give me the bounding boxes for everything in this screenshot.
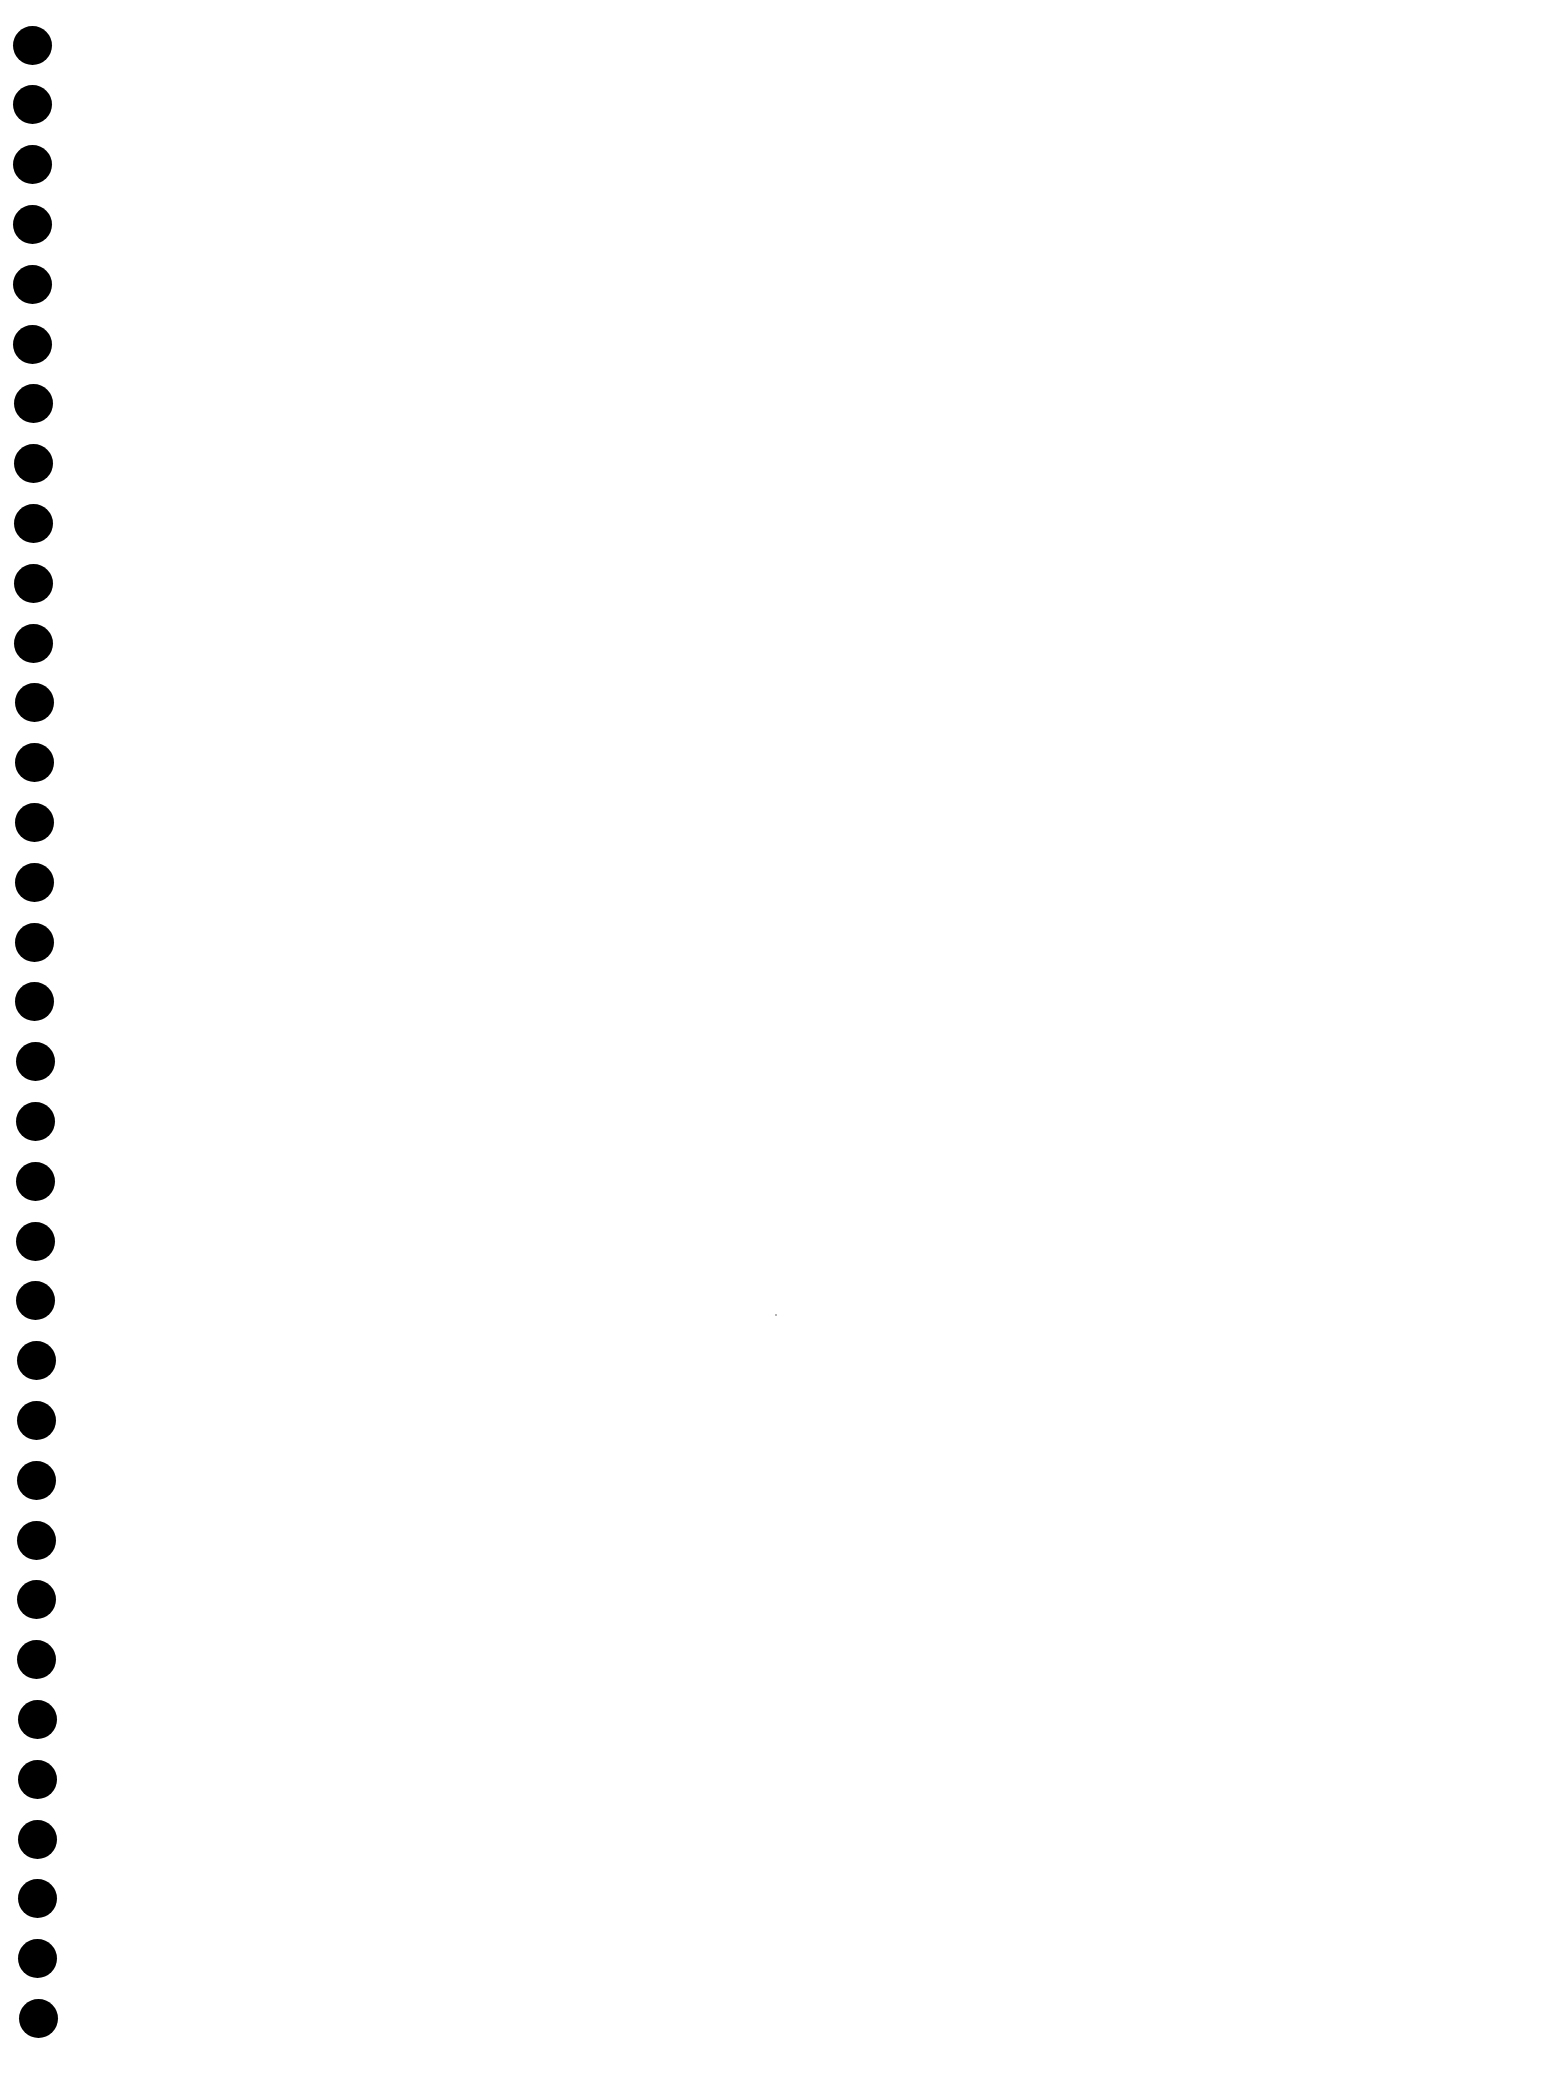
binder-hole xyxy=(18,1760,57,1799)
binder-hole xyxy=(17,1521,56,1560)
binder-hole xyxy=(18,1939,57,1978)
binder-hole xyxy=(17,1401,56,1440)
binder-hole xyxy=(15,923,54,962)
binder-hole xyxy=(13,325,52,364)
paper-speck xyxy=(775,1314,777,1316)
binder-hole xyxy=(13,205,52,244)
binder-hole xyxy=(16,1162,55,1201)
binder-hole xyxy=(13,265,52,304)
binder-hole xyxy=(15,803,54,842)
binder-hole xyxy=(17,1640,56,1679)
binder-hole xyxy=(16,1222,55,1261)
binder-hole xyxy=(14,504,53,543)
notebook-page xyxy=(0,0,1547,2084)
binder-hole xyxy=(15,863,54,902)
binder-hole xyxy=(13,145,52,184)
binder-hole xyxy=(14,624,53,663)
binder-hole xyxy=(17,1461,56,1500)
binder-hole xyxy=(16,1042,55,1081)
binder-hole xyxy=(15,982,54,1021)
binder-hole xyxy=(17,1580,56,1619)
binder-hole xyxy=(18,1700,57,1739)
binder-hole xyxy=(18,1879,57,1918)
binder-holes-column xyxy=(0,0,80,2084)
binder-hole xyxy=(16,1281,55,1320)
binder-hole xyxy=(14,564,53,603)
binder-hole xyxy=(13,26,52,65)
binder-hole xyxy=(19,1999,58,2038)
binder-hole xyxy=(15,743,54,782)
binder-hole xyxy=(16,1102,55,1141)
binder-hole xyxy=(13,85,52,124)
binder-hole xyxy=(14,384,53,423)
binder-hole xyxy=(17,1341,56,1380)
binder-hole xyxy=(18,1820,57,1859)
binder-hole xyxy=(14,444,53,483)
binder-hole xyxy=(15,683,54,722)
